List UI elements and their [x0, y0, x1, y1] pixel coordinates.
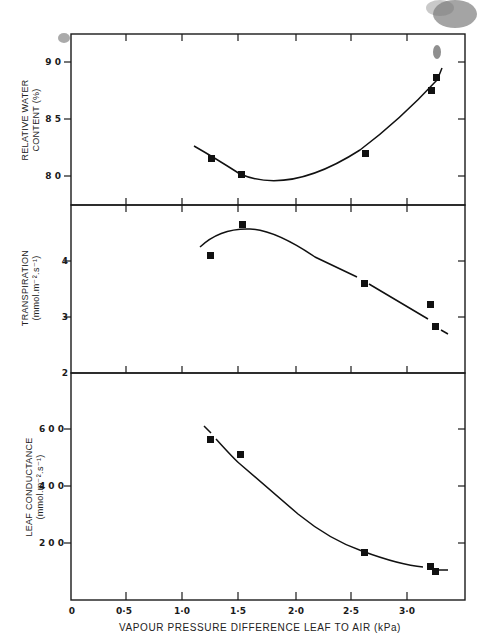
- panel-leaf-conductance: 6 0 0 4 0 0 2 0 0 LEAF CONDUCTANCE (mmol…: [24, 373, 465, 600]
- tr-plot-frame: [71, 205, 465, 373]
- rwc-plot-frame: [71, 34, 465, 205]
- tr-ylabel-line1: TRANSPIRATION: [20, 250, 30, 326]
- tr-fit-curve: [200, 229, 448, 334]
- x-axis-title: VAPOUR PRESSURE DIFFERENCE LEAF TO AIR (…: [119, 622, 401, 633]
- rwc-ylabel-line1: RELATIVE WATER: [20, 79, 30, 160]
- rwc-ytick-80: 8 0: [45, 171, 61, 181]
- xtick-1-0: 1·0: [174, 606, 190, 616]
- lc-data-points: [207, 436, 439, 575]
- panel-relative-water-content: 9 0 8 5 8 0 RELATIVE WATER CONTENT (%): [20, 34, 465, 205]
- tr-ytick-2: 2: [62, 368, 68, 378]
- lc-ylabel-line2: (mmol.m⁻².s⁻¹): [35, 454, 45, 519]
- rwc-ytick-90: 9 0: [45, 57, 61, 67]
- xtick-0: 0: [69, 606, 75, 616]
- lc-ytick-200: 2 0 0: [39, 538, 64, 548]
- lc-fit-curve: [204, 426, 448, 570]
- tr-ylabel-line2: (mmol.m⁻².s⁻¹): [31, 255, 41, 320]
- tr-ytick-4: 4: [62, 256, 68, 266]
- lc-ytick-600: 6 0 0: [39, 424, 64, 434]
- xtick-1-5: 1·5: [230, 606, 246, 616]
- rwc-fit-curve: [194, 68, 442, 181]
- xtick-3-0: 3·0: [399, 606, 415, 616]
- rwc-data-points: [208, 74, 440, 178]
- lc-ylabel-line1: LEAF CONDUCTANCE: [24, 437, 34, 536]
- tr-data-points: [207, 221, 439, 330]
- figure-three-panel-chart: 9 0 8 5 8 0 RELATIVE WATER CONTENT (%): [0, 0, 481, 644]
- rwc-ylabel-line2: CONTENT (%): [31, 88, 41, 151]
- x-axis: 0 0·5 1·0 1·5 2·0 2·5 3·0 VAPOUR PRESSUR…: [69, 606, 415, 633]
- xtick-2-5: 2·5: [343, 606, 359, 616]
- xtick-2-0: 2·0: [288, 606, 304, 616]
- lc-plot-frame: [71, 373, 465, 600]
- tr-ytick-3: 3: [62, 312, 68, 322]
- ink-smudge-decoration: [58, 0, 477, 59]
- xtick-0-5: 0·5: [116, 606, 132, 616]
- rwc-ytick-85: 8 5: [45, 114, 61, 124]
- panel-transpiration: 4 3 2 TRANSPIRATION (mmol.m⁻².s⁻¹): [20, 205, 465, 378]
